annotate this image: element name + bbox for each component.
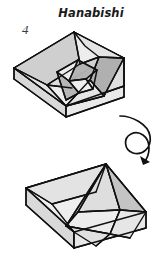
lower-origami-figure xyxy=(0,148,168,259)
origami-diagram-page: Hanabishi 4 xyxy=(0,0,168,259)
page-title: Hanabishi xyxy=(0,6,168,20)
